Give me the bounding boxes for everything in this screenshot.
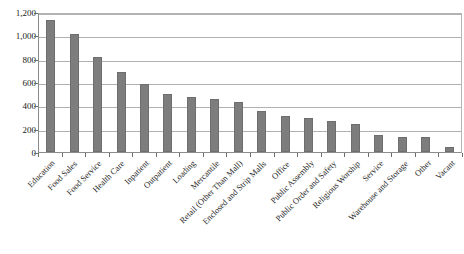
- bar: [70, 34, 79, 152]
- x-axis-category-label: Other: [413, 159, 433, 179]
- y-axis-tick-label: 1,000: [0, 32, 36, 41]
- x-axis-tick-mark: [462, 153, 463, 157]
- bar: [93, 57, 102, 152]
- bar-slot: [86, 14, 109, 152]
- y-axis-labels: 02004006008001,0001,200: [0, 0, 36, 160]
- y-axis-tick-label: 1,200: [0, 9, 36, 18]
- y-axis-tick-label: 200: [0, 125, 36, 134]
- bar-slot: [227, 14, 250, 152]
- bar: [445, 147, 454, 152]
- bar: [304, 118, 313, 152]
- bar: [398, 137, 407, 152]
- bar: [327, 121, 336, 153]
- bar: [117, 72, 126, 153]
- plot-area: [38, 13, 462, 153]
- bar-slot: [180, 14, 203, 152]
- bar-slot: [156, 14, 179, 152]
- y-axis-tick-label: 400: [0, 102, 36, 111]
- bar-slot: [414, 14, 437, 152]
- bar-slot: [62, 14, 85, 152]
- x-axis-category-label: Vacant: [434, 159, 457, 182]
- x-axis-labels: EducationFood SalesFood ServiceHealth Ca…: [38, 157, 462, 254]
- bar: [257, 111, 266, 152]
- bar: [281, 116, 290, 152]
- bar-slot: [344, 14, 367, 152]
- bar-slot: [203, 14, 226, 152]
- bar: [374, 135, 383, 153]
- bar-chart: 02004006008001,0001,200 EducationFood Sa…: [0, 0, 464, 254]
- bar-slot: [320, 14, 343, 152]
- bar-series: [39, 14, 461, 152]
- y-axis-tick-label: 800: [0, 55, 36, 64]
- bar-slot: [273, 14, 296, 152]
- bar: [187, 97, 196, 152]
- bar-slot: [367, 14, 390, 152]
- bar-slot: [39, 14, 62, 152]
- bar: [46, 20, 55, 152]
- bar: [351, 124, 360, 152]
- bar-slot: [437, 14, 460, 152]
- bar: [140, 84, 149, 152]
- bar-slot: [133, 14, 156, 152]
- y-axis-tick-label: 0: [0, 149, 36, 158]
- bar-slot: [297, 14, 320, 152]
- bar-slot: [391, 14, 414, 152]
- bar: [163, 94, 172, 152]
- bar: [421, 137, 430, 152]
- bar: [234, 102, 243, 152]
- bar-slot: [250, 14, 273, 152]
- bar-slot: [109, 14, 132, 152]
- y-axis-tick-label: 600: [0, 79, 36, 88]
- bar: [210, 99, 219, 152]
